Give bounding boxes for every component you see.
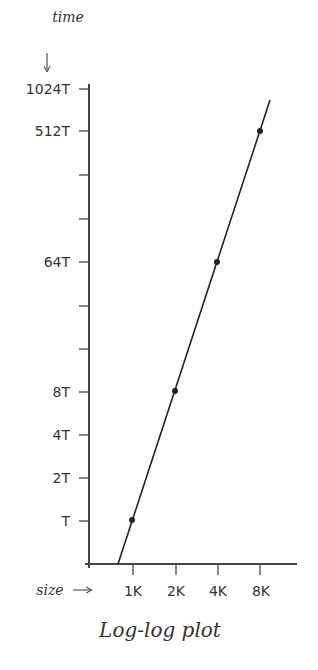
- y-tick-64T: 64T: [44, 254, 71, 270]
- x-tick-labels: 1K 2K 4K 8K: [124, 583, 271, 599]
- x-ticks: [133, 564, 260, 575]
- y-tick-labels: 1024T 512T 64T 8T 4T 2T T: [26, 81, 71, 529]
- x-tick-4K: 4K: [209, 583, 228, 599]
- y-tick-8T: 8T: [53, 384, 71, 400]
- x-tick-1K: 1K: [124, 583, 143, 599]
- chart-caption: Log-log plot: [98, 618, 222, 642]
- x-tick-2K: 2K: [167, 583, 186, 599]
- log-log-chart: time 1024T 512T 64T 8T 4T 2T T: [0, 0, 318, 670]
- y-tick-1024T: 1024T: [26, 81, 71, 97]
- y-tick-512T: 512T: [35, 123, 71, 139]
- point-4K: [214, 259, 220, 265]
- fit-line: [118, 100, 270, 564]
- y-axis-label: time: [52, 9, 84, 25]
- point-1K: [129, 517, 135, 523]
- x-axis-label: size: [36, 582, 63, 598]
- y-tick-T: T: [60, 513, 70, 529]
- y-ticks: [79, 89, 89, 521]
- y-axis-arrow-icon: [44, 53, 50, 72]
- point-8K: [257, 128, 263, 134]
- x-axis-arrow-icon: [73, 587, 92, 593]
- y-tick-2T: 2T: [53, 470, 71, 486]
- x-tick-8K: 8K: [252, 583, 271, 599]
- y-tick-4T: 4T: [53, 427, 71, 443]
- point-2K: [172, 388, 178, 394]
